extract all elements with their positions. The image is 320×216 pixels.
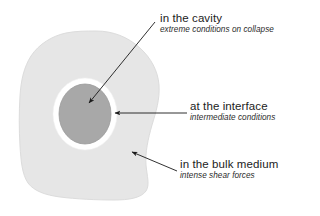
annotation-subtitle-interface: intermediate conditions (190, 113, 275, 123)
annotation-label-cavity: in the cavity extreme conditions on coll… (160, 12, 274, 35)
annotation-title-cavity: in the cavity (160, 12, 274, 25)
annotation-label-bulk-medium: in the bulk medium intense shear forces (180, 158, 278, 181)
cavity-circle (59, 84, 111, 144)
annotation-subtitle-cavity: extreme conditions on collapse (160, 25, 274, 35)
annotation-subtitle-bulk-medium: intense shear forces (180, 171, 278, 181)
annotation-label-interface: at the interface intermediate conditions (190, 100, 275, 123)
annotation-title-bulk-medium: in the bulk medium (180, 158, 278, 171)
annotation-title-interface: at the interface (190, 100, 275, 113)
